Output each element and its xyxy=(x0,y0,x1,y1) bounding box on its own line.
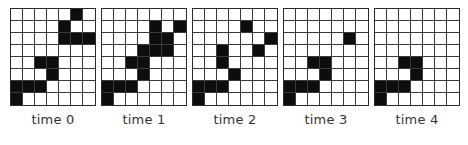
empty-cell xyxy=(399,93,411,105)
empty-cell xyxy=(217,69,229,81)
empty-cell xyxy=(47,21,59,33)
filled-cell xyxy=(174,21,186,33)
empty-cell xyxy=(83,9,95,21)
empty-cell xyxy=(332,69,344,81)
empty-cell xyxy=(193,21,205,33)
filled-cell xyxy=(71,33,83,45)
filled-cell xyxy=(35,81,47,93)
filled-cell xyxy=(138,57,150,69)
empty-cell xyxy=(253,9,265,21)
empty-cell xyxy=(344,45,356,57)
empty-cell xyxy=(11,69,23,81)
empty-cell xyxy=(253,93,265,105)
empty-cell xyxy=(162,93,174,105)
empty-cell xyxy=(344,93,356,105)
empty-cell xyxy=(387,33,399,45)
empty-cell xyxy=(332,57,344,69)
cell-grid xyxy=(283,8,369,106)
empty-cell xyxy=(150,93,162,105)
empty-cell xyxy=(423,57,435,69)
empty-cell xyxy=(150,69,162,81)
empty-cell xyxy=(423,21,435,33)
empty-cell xyxy=(399,9,411,21)
empty-cell xyxy=(150,81,162,93)
empty-cell xyxy=(23,45,35,57)
empty-cell xyxy=(296,69,308,81)
empty-cell xyxy=(320,81,332,93)
empty-cell xyxy=(229,45,241,57)
empty-cell xyxy=(399,45,411,57)
empty-cell xyxy=(71,21,83,33)
empty-cell xyxy=(387,93,399,105)
filled-cell xyxy=(162,45,174,57)
empty-cell xyxy=(217,21,229,33)
empty-cell xyxy=(150,9,162,21)
filled-cell xyxy=(344,33,356,45)
empty-cell xyxy=(332,45,344,57)
empty-cell xyxy=(83,45,95,57)
empty-cell xyxy=(284,57,296,69)
empty-cell xyxy=(71,69,83,81)
empty-cell xyxy=(83,69,95,81)
filled-cell xyxy=(308,57,320,69)
empty-cell xyxy=(265,57,277,69)
empty-cell xyxy=(47,45,59,57)
empty-cell xyxy=(229,21,241,33)
empty-cell xyxy=(253,21,265,33)
empty-cell xyxy=(59,9,71,21)
empty-cell xyxy=(284,33,296,45)
empty-cell xyxy=(205,45,217,57)
empty-cell xyxy=(296,93,308,105)
empty-cell xyxy=(59,93,71,105)
empty-cell xyxy=(11,21,23,33)
empty-cell xyxy=(35,45,47,57)
empty-cell xyxy=(435,81,447,93)
empty-cell xyxy=(11,33,23,45)
empty-cell xyxy=(138,33,150,45)
empty-cell xyxy=(423,69,435,81)
empty-cell xyxy=(411,93,423,105)
empty-cell xyxy=(387,57,399,69)
empty-cell xyxy=(71,93,83,105)
filled-cell xyxy=(150,21,162,33)
empty-cell xyxy=(174,45,186,57)
empty-cell xyxy=(356,69,368,81)
empty-cell xyxy=(241,69,253,81)
empty-cell xyxy=(11,9,23,21)
empty-cell xyxy=(71,57,83,69)
filled-cell xyxy=(241,21,253,33)
empty-cell xyxy=(265,9,277,21)
empty-cell xyxy=(332,93,344,105)
empty-cell xyxy=(229,9,241,21)
empty-cell xyxy=(435,45,447,57)
filled-cell xyxy=(126,57,138,69)
cell-grid xyxy=(374,8,460,106)
empty-cell xyxy=(447,69,459,81)
filled-cell xyxy=(375,81,387,93)
empty-cell xyxy=(356,21,368,33)
empty-cell xyxy=(399,33,411,45)
empty-cell xyxy=(253,33,265,45)
empty-cell xyxy=(447,93,459,105)
empty-cell xyxy=(435,69,447,81)
empty-cell xyxy=(375,9,387,21)
empty-cell xyxy=(71,45,83,57)
empty-cell xyxy=(126,21,138,33)
empty-cell xyxy=(284,69,296,81)
empty-cell xyxy=(423,9,435,21)
filled-cell xyxy=(217,81,229,93)
empty-cell xyxy=(284,9,296,21)
empty-cell xyxy=(265,93,277,105)
empty-cell xyxy=(399,69,411,81)
empty-cell xyxy=(447,21,459,33)
filled-cell xyxy=(375,93,387,105)
filled-cell xyxy=(11,81,23,93)
filled-cell xyxy=(205,81,217,93)
empty-cell xyxy=(83,81,95,93)
empty-cell xyxy=(138,81,150,93)
filled-cell xyxy=(296,81,308,93)
empty-cell xyxy=(126,9,138,21)
empty-cell xyxy=(126,69,138,81)
filled-cell xyxy=(114,81,126,93)
empty-cell xyxy=(35,21,47,33)
